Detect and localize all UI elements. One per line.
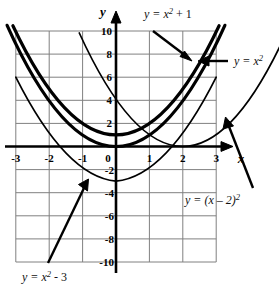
y-tick-label-8: 8 (107, 48, 113, 60)
y-tick-label-2: 2 (107, 117, 113, 129)
x-tick-label-2: 2 (180, 152, 186, 164)
label-plus-1-lhs: y = x (143, 7, 169, 21)
label-y-equals-x-squared-minus-3: y = x2 - 3 (21, 269, 67, 284)
y-tick-label-neg6: -6 (105, 210, 115, 222)
figure-background (0, 0, 279, 287)
label-plus-1-rhs: + 1 (173, 7, 192, 21)
x-tick-label-0: 0 (105, 152, 111, 164)
parabola-transformations-figure: y x -3 -2 -1 0 1 2 3 10 8 6 4 2 -2 -4 -6… (0, 0, 279, 287)
y-tick-label-neg4: -4 (105, 187, 115, 199)
label-y-equals-x-minus-2-squared: y = (x – 2)2 (184, 192, 241, 207)
x-tick-label-neg3: -3 (11, 152, 21, 164)
x-tick-label-1: 1 (147, 152, 153, 164)
label-minus-3-lhs: y = x (21, 270, 47, 284)
y-axis-name: y (98, 4, 106, 19)
label-x-squared-lhs: y = x (233, 54, 259, 68)
y-tick-label-neg8: -8 (105, 233, 115, 245)
y-tick-label-neg10: -10 (99, 256, 114, 268)
y-tick-label-10: 10 (101, 25, 113, 37)
x-tick-label-3: 3 (213, 152, 219, 164)
y-tick-label-neg2: -2 (105, 164, 115, 176)
x-tick-label-neg2: -2 (45, 152, 55, 164)
y-tick-label-4: 4 (107, 94, 113, 106)
x-tick-label-neg1: -1 (78, 152, 87, 164)
label-minus-3-rhs: - 3 (51, 270, 67, 284)
label-x-minus-2-lhs: y = (x – 2) (184, 193, 236, 207)
label-y-equals-x-squared-plus-1: y = x2 + 1 (143, 6, 192, 21)
y-tick-label-6: 6 (107, 71, 113, 83)
